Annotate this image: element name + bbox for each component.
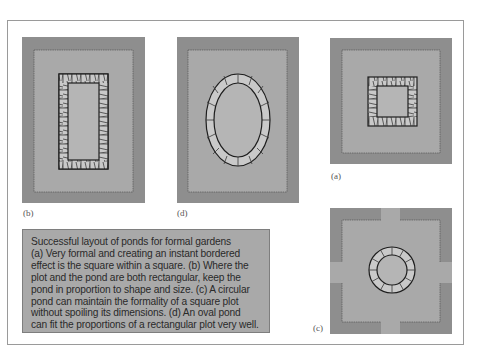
caption-box: Successful layout of ponds for formal ga…	[22, 229, 270, 333]
panel-c-circular-pond	[330, 208, 452, 334]
caption-line: (a) Very formal and creating an instant …	[31, 248, 269, 260]
panel-d-label: (d)	[177, 208, 188, 218]
caption-line: effect is the square within a square. (b…	[31, 260, 269, 272]
caption-line: without spoiling its dimensions. (d) An …	[31, 307, 269, 319]
caption-line: pond can maintain the formality of a squ…	[31, 296, 269, 308]
caption-line: plot and the pond are both rectangular, …	[31, 272, 269, 284]
panel-c-label: (c)	[313, 323, 323, 333]
panel-a-square-pond	[330, 38, 452, 164]
caption-line: can fit the proportions of a rectangular…	[31, 319, 269, 331]
caption-title: Successful layout of ponds for formal ga…	[31, 236, 269, 248]
panel-b-label: (b)	[23, 208, 34, 218]
panel-a-label: (a)	[331, 171, 341, 181]
panel-b-rectangular-pond	[22, 37, 145, 203]
panel-d-oval-pond	[177, 37, 299, 203]
caption-line: pond in proportion to shape and size. (c…	[31, 284, 269, 296]
